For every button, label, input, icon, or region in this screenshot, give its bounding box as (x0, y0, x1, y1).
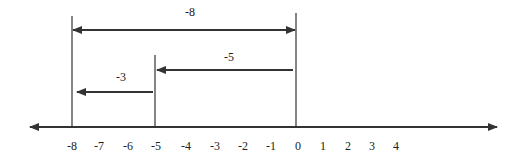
tick-label: -4 (181, 139, 191, 153)
tick-label: -6 (123, 139, 133, 153)
arrow-label-neg8: -8 (185, 5, 195, 19)
tick-label: -2 (238, 139, 248, 153)
tick-label: 4 (393, 139, 399, 153)
tick-labels: -8 -7 -6 -5 -4 -3 -2 -1 0 1 2 3 4 (67, 139, 399, 153)
tick-label: -7 (94, 139, 104, 153)
tick-label: -8 (67, 139, 77, 153)
number-line-diagram: -8 -5 -3 -8 -7 -6 -5 -4 -3 -2 -1 0 1 2 3… (0, 0, 518, 160)
tick-label: 0 (295, 139, 301, 153)
tick-label: 1 (320, 139, 326, 153)
arrow-label-neg3: -3 (116, 70, 126, 84)
tick-label: -5 (151, 139, 161, 153)
tick-label: -1 (266, 139, 276, 153)
arrow-label-neg5: -5 (224, 50, 234, 64)
tick-label: -3 (210, 139, 220, 153)
tick-label: 2 (345, 139, 351, 153)
tick-label: 3 (369, 139, 375, 153)
